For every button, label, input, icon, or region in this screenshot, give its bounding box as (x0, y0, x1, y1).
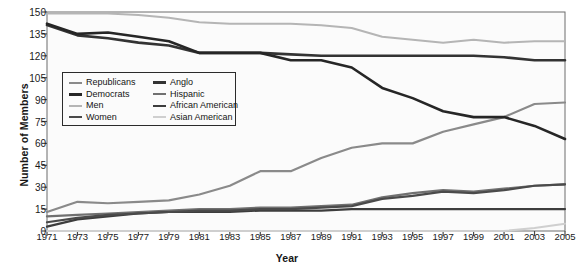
legend-item-hispanic[interactable]: Hispanic (153, 89, 237, 101)
y-axis-tick-label: 30 (16, 182, 46, 193)
y-axis-tick-label: 90 (16, 94, 46, 105)
x-axis-tick-label: 2001 (493, 231, 514, 242)
x-axis-tick-labels: 1971197319751977197919811983198519871989… (0, 231, 574, 247)
legend-item-women[interactable]: Women (69, 112, 153, 124)
y-axis-tick-label: 15 (16, 204, 46, 215)
y-axis-tick-labels: 0153045607590105120135150 (12, 0, 46, 270)
x-axis-tick-label: 1999 (463, 231, 484, 242)
x-axis-tick-label: 1991 (341, 231, 362, 242)
legend-swatch-icon (69, 105, 82, 107)
legend-item-label: Democrats (86, 89, 130, 101)
legend-swatch-icon (69, 82, 82, 84)
legend-item-label: Republicans (86, 77, 136, 89)
y-axis-tick-label: 120 (16, 50, 46, 61)
legend-swatch-icon (153, 116, 166, 118)
x-axis-tick-label: 1987 (280, 231, 301, 242)
y-axis-tick-label: 45 (16, 160, 46, 171)
legend-item-label: Asian American (170, 112, 233, 124)
x-axis-tick-label: 1977 (128, 231, 149, 242)
x-axis-tick-label: 1995 (402, 231, 423, 242)
legend-item-label: Women (86, 112, 117, 124)
legend-swatch-icon (153, 105, 166, 107)
y-axis-tick-label: 60 (16, 138, 46, 149)
legend-swatch-icon (153, 81, 166, 84)
legend-item-label: Hispanic (170, 89, 205, 101)
x-axis-label: Year (0, 252, 574, 264)
x-axis-tick-label: 1993 (372, 231, 393, 242)
legend-item-label: Anglo (170, 77, 193, 89)
x-axis-tick-label: 2003 (524, 231, 545, 242)
x-axis-tick-label: 1997 (433, 231, 454, 242)
legend-swatch-icon (69, 93, 82, 96)
y-axis-tick-label: 150 (16, 7, 46, 18)
legend-item-republicans[interactable]: Republicans (69, 77, 153, 89)
legend-swatch-icon (69, 116, 82, 118)
y-axis-tick-label: 75 (16, 116, 46, 127)
x-axis-tick-label: 1989 (311, 231, 332, 242)
legend-item-label: Men (86, 100, 104, 112)
x-axis-tick-label: 2005 (554, 231, 575, 242)
x-axis-tick-label: 1975 (97, 231, 118, 242)
y-axis-tick-label: 105 (16, 72, 46, 83)
legend: RepublicansAngloDemocratsHispanicMenAfri… (62, 72, 236, 126)
x-axis-tick-label: 1979 (158, 231, 179, 242)
x-axis-tick-label: 1985 (250, 231, 271, 242)
x-axis-tick-label: 1981 (189, 231, 210, 242)
legend-item-african-american[interactable]: African American (153, 100, 237, 112)
x-axis-tick-label: 1971 (36, 231, 57, 242)
legend-item-asian-american[interactable]: Asian American (153, 112, 237, 124)
legend-entries: RepublicansAngloDemocratsHispanicMenAfri… (69, 77, 229, 123)
legend-item-men[interactable]: Men (69, 100, 153, 112)
legend-item-anglo[interactable]: Anglo (153, 77, 237, 89)
legend-swatch-icon (153, 93, 166, 95)
x-axis-tick-label: 1973 (67, 231, 88, 242)
y-axis-tick-label: 135 (16, 28, 46, 39)
legend-item-democrats[interactable]: Democrats (69, 89, 153, 101)
legend-item-label: African American (170, 100, 238, 112)
x-axis-tick-label: 1983 (219, 231, 240, 242)
